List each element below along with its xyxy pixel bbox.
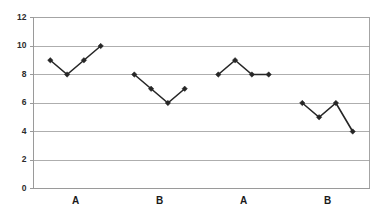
series-segment xyxy=(218,60,268,74)
y-axis-tick-label: 10 xyxy=(17,40,27,50)
series-segment xyxy=(134,75,184,104)
x-axis-group-label: A xyxy=(72,195,79,206)
chart-container: 024681012 ABAB xyxy=(0,0,375,221)
y-axis-tick-label: 12 xyxy=(17,12,27,22)
line-chart: 024681012 ABAB xyxy=(0,0,375,221)
y-axis-tick-labels: 024681012 xyxy=(17,12,27,193)
y-axis-tick-label: 6 xyxy=(22,97,27,107)
y-axis-tick-label: 0 xyxy=(22,183,27,193)
y-axis-tick-label: 2 xyxy=(22,154,27,164)
x-axis-tick-labels: ABAB xyxy=(72,195,331,206)
series-segment xyxy=(302,103,352,132)
y-axis-tick-label: 8 xyxy=(22,69,27,79)
series-segment xyxy=(50,46,100,75)
x-axis-group-label: A xyxy=(240,195,247,206)
y-axis-tick-label: 4 xyxy=(22,126,27,136)
x-axis-group-label: B xyxy=(156,195,163,206)
data-point-marker xyxy=(266,72,271,77)
x-axis-group-label: B xyxy=(324,195,331,206)
data-series xyxy=(48,43,356,134)
